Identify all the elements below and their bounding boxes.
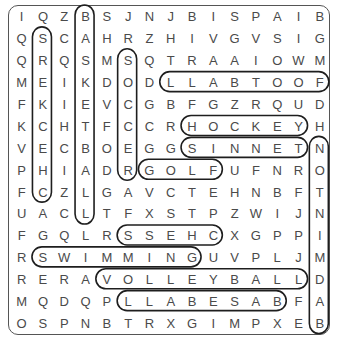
letter-cell[interactable]: I (139, 247, 160, 269)
letter-cell[interactable]: B (267, 291, 288, 313)
letter-cell[interactable]: B (309, 6, 330, 28)
letter-cell[interactable]: D (96, 159, 117, 181)
letter-cell[interactable]: G (245, 225, 266, 247)
letter-cell[interactable]: P (288, 225, 309, 247)
letter-cell[interactable]: K (75, 72, 96, 94)
letter-cell[interactable]: V (139, 181, 160, 203)
letter-cell[interactable]: W (245, 203, 266, 225)
letter-cell[interactable]: S (139, 225, 160, 247)
letter-cell[interactable]: I (245, 50, 266, 72)
letter-cell[interactable]: N (245, 181, 266, 203)
letter-cell[interactable]: E (32, 72, 53, 94)
letter-cell[interactable]: G (181, 312, 202, 334)
letter-cell[interactable]: O (203, 115, 224, 137)
letter-cell[interactable]: L (181, 159, 202, 181)
letter-cell[interactable]: I (267, 203, 288, 225)
letter-cell[interactable]: A (203, 72, 224, 94)
letter-cell[interactable]: Z (224, 94, 245, 116)
letter-cell[interactable]: D (54, 291, 75, 313)
letter-cell[interactable]: G (203, 94, 224, 116)
letter-cell[interactable]: L (267, 269, 288, 291)
letter-cell[interactable]: T (160, 50, 181, 72)
letter-cell[interactable]: F (288, 291, 309, 313)
letter-cell[interactable]: F (11, 94, 32, 116)
letter-cell[interactable]: A (75, 269, 96, 291)
letter-cell[interactable]: C (139, 115, 160, 137)
letter-cell[interactable]: B (267, 181, 288, 203)
letter-cell[interactable]: L (75, 225, 96, 247)
letter-cell[interactable]: R (160, 115, 181, 137)
letter-cell[interactable]: V (11, 137, 32, 159)
letter-cell[interactable]: P (203, 203, 224, 225)
letter-cell[interactable]: I (181, 28, 202, 50)
letter-cell[interactable]: J (288, 247, 309, 269)
letter-cell[interactable]: S (160, 203, 181, 225)
letter-cell[interactable]: O (267, 50, 288, 72)
letter-cell[interactable]: A (245, 269, 266, 291)
letter-cell[interactable]: I (75, 247, 96, 269)
letter-cell[interactable]: Z (54, 181, 75, 203)
letter-cell[interactable]: S (32, 247, 53, 269)
letter-cell[interactable]: C (160, 181, 181, 203)
letter-cell[interactable]: V (96, 269, 117, 291)
letter-cell[interactable]: P (245, 247, 266, 269)
letter-cell[interactable]: S (224, 6, 245, 28)
letter-cell[interactable]: H (160, 28, 181, 50)
letter-cell[interactable]: I (288, 6, 309, 28)
letter-cell[interactable]: O (160, 159, 181, 181)
letter-cell[interactable]: A (267, 6, 288, 28)
letter-cell[interactable]: E (32, 137, 53, 159)
letter-cell[interactable]: A (117, 181, 138, 203)
letter-cell[interactable]: B (181, 6, 202, 28)
letter-cell[interactable]: S (96, 6, 117, 28)
letter-cell[interactable]: S (117, 225, 138, 247)
letter-cell[interactable]: K (32, 94, 53, 116)
letter-cell[interactable]: F (181, 94, 202, 116)
letter-cell[interactable]: G (139, 94, 160, 116)
letter-cell[interactable]: A (203, 50, 224, 72)
letter-cell[interactable]: L (160, 72, 181, 94)
letter-cell[interactable]: F (309, 72, 330, 94)
letter-cell[interactable]: P (54, 312, 75, 334)
letter-cell[interactable]: G (309, 28, 330, 50)
letter-cell[interactable]: G (96, 181, 117, 203)
letter-cell[interactable]: S (75, 50, 96, 72)
letter-cell[interactable]: R (11, 247, 32, 269)
letter-cell[interactable]: I (54, 72, 75, 94)
letter-cell[interactable]: A (75, 159, 96, 181)
letter-cell[interactable]: T (309, 181, 330, 203)
letter-cell[interactable]: C (117, 94, 138, 116)
letter-cell[interactable]: D (309, 269, 330, 291)
letter-cell[interactable]: E (267, 137, 288, 159)
letter-cell[interactable]: S (117, 50, 138, 72)
letter-cell[interactable]: Q (11, 50, 32, 72)
letter-cell[interactable]: S (32, 312, 53, 334)
letter-cell[interactable]: O (288, 72, 309, 94)
letter-cell[interactable]: G (139, 137, 160, 159)
letter-cell[interactable]: X (224, 225, 245, 247)
letter-cell[interactable]: S (32, 28, 53, 50)
letter-cell[interactable]: M (117, 247, 138, 269)
letter-cell[interactable]: D (139, 72, 160, 94)
letter-cell[interactable]: L (75, 181, 96, 203)
letter-cell[interactable]: C (203, 225, 224, 247)
letter-cell[interactable]: I (288, 28, 309, 50)
letter-cell[interactable]: X (139, 203, 160, 225)
letter-cell[interactable]: N (139, 6, 160, 28)
letter-cell[interactable]: R (32, 50, 53, 72)
letter-cell[interactable]: R (117, 159, 138, 181)
letter-cell[interactable]: N (309, 137, 330, 159)
letter-cell[interactable]: C (32, 181, 53, 203)
letter-cell[interactable]: E (288, 312, 309, 334)
letter-cell[interactable]: Q (267, 94, 288, 116)
letter-cell[interactable]: B (96, 312, 117, 334)
letter-cell[interactable]: L (288, 269, 309, 291)
letter-cell[interactable]: H (54, 115, 75, 137)
letter-cell[interactable]: W (54, 247, 75, 269)
letter-cell[interactable]: V (96, 94, 117, 116)
letter-cell[interactable]: N (309, 203, 330, 225)
letter-cell[interactable]: H (181, 225, 202, 247)
letter-cell[interactable]: M (309, 247, 330, 269)
letter-cell[interactable]: F (203, 159, 224, 181)
letter-cell[interactable]: V (245, 28, 266, 50)
